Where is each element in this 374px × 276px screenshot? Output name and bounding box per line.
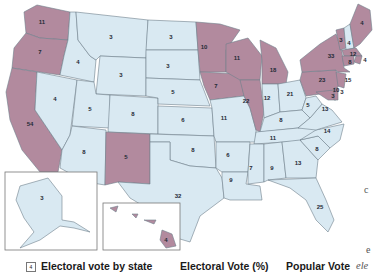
state-ks[interactable] — [158, 106, 214, 136]
label-ga: 13 — [295, 160, 302, 166]
label-nj: 15 — [345, 77, 352, 83]
label-pa: 23 — [319, 77, 326, 83]
legend-electoral-pct: Electoral Vote (%) — [180, 260, 269, 272]
label-mo: 11 — [221, 115, 228, 121]
label-oh: 21 — [287, 91, 294, 97]
side-fragment-e: e — [366, 244, 370, 255]
state-sd[interactable] — [146, 50, 200, 80]
label-fl: 25 — [317, 204, 324, 210]
label-ca: 54 — [27, 121, 34, 127]
label-va: 13 — [322, 106, 329, 112]
label-de: 3 — [340, 89, 344, 95]
side-fragment-c: c — [364, 184, 368, 195]
label-mn: 10 — [201, 44, 208, 50]
legend: 4Electoral vote by state Electoral Vote … — [0, 258, 374, 276]
legend-sample-box: 4 — [26, 262, 36, 272]
label-in: 12 — [264, 95, 271, 101]
label-wa: 11 — [39, 19, 46, 25]
legend-fragment-ele: ele — [356, 260, 368, 271]
label-nc: 14 — [324, 128, 331, 134]
label-il: 22 — [243, 98, 250, 104]
us-electoral-map: 11 7 54 4 4 3 3 5 8 8 5 3 3 5 6 8 32 10 … — [0, 0, 374, 255]
state-mi[interactable] — [260, 40, 288, 84]
state-fl[interactable] — [268, 178, 334, 232]
label-tx: 32 — [175, 193, 182, 199]
legend-electoral-by-state-label: Electoral vote by state — [41, 260, 152, 272]
label-ma: 12 — [350, 51, 357, 57]
legend-electoral-by-state: 4Electoral vote by state — [26, 260, 152, 272]
label-ny: 33 — [328, 53, 335, 59]
label-tn: 11 — [270, 135, 277, 141]
label-wi: 11 — [234, 55, 241, 61]
state-ri[interactable] — [354, 56, 362, 64]
label-ri: 4 — [363, 57, 367, 63]
label-mi: 18 — [270, 67, 277, 73]
state-me[interactable] — [350, 4, 372, 48]
state-wi[interactable] — [226, 38, 262, 80]
legend-popular-vote: Popular Vote — [286, 260, 350, 272]
state-ar[interactable] — [216, 142, 250, 172]
